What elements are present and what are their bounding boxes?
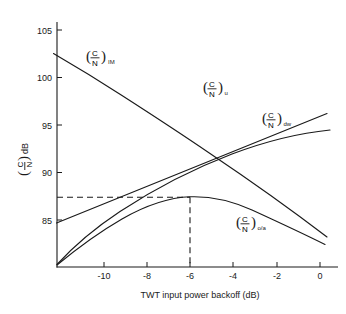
- x-tick-label--10: -10: [97, 271, 110, 281]
- cn-oa-paren-close: ): [251, 214, 256, 231]
- cn-im-paren-close: ): [101, 48, 106, 65]
- cn-im-paren-open: (: [86, 48, 91, 65]
- cn-oa-numerator: C: [242, 215, 248, 224]
- y-tick-label-85: 85: [42, 216, 52, 226]
- cn-dw-paren-open: (: [262, 110, 267, 127]
- y-tick-label-100: 100: [37, 73, 52, 83]
- cn-dw-numerator: C: [268, 111, 274, 120]
- cn-dw-paren-close: ): [277, 110, 282, 127]
- y-axis-title-unit: dB: [20, 143, 30, 154]
- x-tick-label-0: 0: [317, 271, 322, 281]
- cn-im-numerator: C: [92, 49, 98, 58]
- x-tick-label--8: -8: [143, 271, 151, 281]
- cn-im-denominator: N: [92, 59, 98, 68]
- cn-u-denominator: N: [209, 90, 215, 99]
- y-tick-label-105: 105: [37, 26, 52, 36]
- cn-im-subscript: IM: [108, 59, 115, 65]
- cn-dw-subscript: dw: [284, 121, 292, 127]
- x-axis-title: TWT input power backoff (dB): [140, 290, 259, 300]
- x-tick-label--2: -2: [273, 271, 281, 281]
- cn-oa-paren-open: (: [236, 214, 241, 231]
- cn-u-numerator: C: [209, 80, 215, 89]
- y-axis-title-paren-open: (: [15, 171, 32, 176]
- y-tick-label-90: 90: [42, 168, 52, 178]
- cn-u-paren-close: ): [218, 79, 223, 96]
- cn-oa-denominator: N: [242, 225, 248, 234]
- x-tick-label--4: -4: [229, 271, 237, 281]
- cn-u-paren-open: (: [203, 79, 208, 96]
- y-axis-title-paren-close: ): [15, 156, 32, 161]
- y-tick-label-95: 95: [42, 121, 52, 131]
- chart-figure: 105 100 95 90 85 -10 -8 -6 -4 -2 0 ( C N…: [0, 0, 346, 314]
- cn-u-subscript: u: [225, 90, 228, 96]
- cn-dw-denominator: N: [268, 121, 274, 130]
- y-axis-title-numerator: C: [16, 162, 25, 168]
- y-axis-title-denominator: N: [25, 162, 34, 168]
- cn-oa-subscript: o/a: [258, 225, 267, 231]
- x-tick-label--6: -6: [186, 271, 194, 281]
